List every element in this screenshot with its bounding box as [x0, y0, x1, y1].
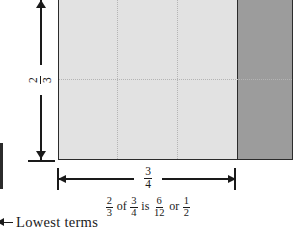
vertical-arrowhead-down-icon: [36, 151, 46, 159]
fraction-two-thirds: 2 3: [28, 76, 53, 84]
fraction-numerator: 2: [106, 196, 113, 208]
fraction-denominator: 3: [106, 208, 113, 219]
caption-word-is: is: [141, 199, 149, 213]
arrow-left-icon: [0, 218, 13, 228]
fraction-numerator: 3: [144, 166, 152, 179]
horizontal-arrowhead-right-icon: [228, 175, 236, 183]
fraction-denominator: 3: [41, 76, 53, 84]
horizontal-arrowhead-left-icon: [58, 175, 66, 183]
caption-fraction-c: 6 12: [153, 196, 166, 219]
caption-word-of: of: [117, 199, 127, 213]
fraction-numerator: 2: [28, 76, 41, 84]
caption-fraction-b: 3 4: [130, 196, 137, 219]
caption-fraction-d: 1 2: [183, 196, 190, 219]
fraction-denominator: 2: [183, 208, 190, 219]
area-model-rectangle: [58, 0, 293, 160]
caption-fraction-a: 2 3: [106, 196, 113, 219]
fraction-denominator: 4: [144, 179, 152, 191]
fraction-area-model-figure: 2 3 3 4 2 3 of 3 4 is 6 12 or 1 2 Lowest…: [0, 0, 303, 241]
lowest-terms-annotation: Lowest terms: [0, 214, 98, 231]
vertical-dimension-label: 2 3: [24, 65, 58, 95]
grid-horizontal-divider-1: [59, 79, 292, 80]
fraction-numerator: 3: [130, 196, 137, 208]
fraction-three-fourths: 3 4: [144, 166, 152, 191]
caption-word-or: or: [169, 199, 179, 213]
fraction-denominator: 12: [153, 208, 166, 219]
vertical-dimension-bottom-tick: [28, 160, 55, 162]
horizontal-dimension-label: 3 4: [134, 165, 162, 192]
lowest-terms-label: Lowest terms: [16, 214, 98, 231]
fraction-numerator: 1: [183, 196, 190, 208]
adjacent-box-edge: [0, 143, 3, 189]
fraction-numerator: 6: [156, 196, 163, 208]
fraction-denominator: 4: [130, 208, 137, 219]
